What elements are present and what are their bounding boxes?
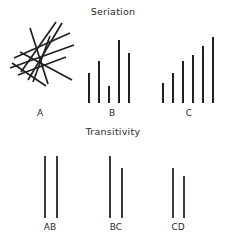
bar bbox=[109, 156, 111, 218]
bar bbox=[172, 73, 174, 103]
panel-ab-label: AB bbox=[44, 222, 56, 232]
bar bbox=[212, 37, 214, 103]
bar bbox=[108, 86, 110, 103]
panel-a-scribble bbox=[8, 18, 88, 98]
panel-c-label: C bbox=[186, 108, 192, 118]
bar bbox=[88, 73, 90, 103]
scribble-segment bbox=[21, 22, 56, 72]
panel-a-label: A bbox=[37, 108, 43, 118]
bar bbox=[202, 46, 204, 103]
panel-b-label: B bbox=[109, 108, 115, 118]
bar bbox=[192, 55, 194, 103]
bar bbox=[121, 168, 123, 218]
bar bbox=[182, 61, 184, 103]
seriation-transitivity-figure: Seriation A B C Transitivity AB BC CD bbox=[0, 0, 226, 239]
bar bbox=[172, 168, 174, 218]
transitivity-section-title: Transitivity bbox=[0, 126, 226, 137]
bar bbox=[183, 176, 185, 218]
panel-cd-label: CD bbox=[171, 222, 184, 232]
bar bbox=[98, 61, 100, 103]
bar bbox=[128, 53, 130, 103]
bar bbox=[118, 40, 120, 103]
panel-bc-label: BC bbox=[110, 222, 122, 232]
bar bbox=[56, 156, 58, 218]
seriation-section-title: Seriation bbox=[0, 6, 226, 17]
bar bbox=[162, 83, 164, 103]
bar bbox=[44, 156, 46, 218]
